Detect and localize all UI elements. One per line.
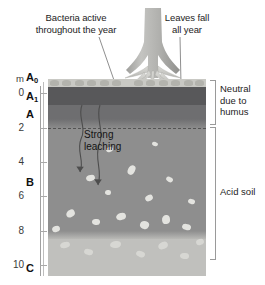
horizon-label-a: A xyxy=(26,108,34,120)
soil-column xyxy=(48,79,206,276)
scale-label-10: 10 xyxy=(2,259,24,270)
label-neutral-line3: humus xyxy=(220,106,264,118)
scale-tick-6 xyxy=(40,196,47,197)
scale-label-4: 4 xyxy=(8,156,24,167)
label-neutral-line1: Neutral xyxy=(220,83,264,95)
scale-label-0: 0 xyxy=(8,87,24,98)
scale-tick-10 xyxy=(40,265,47,266)
horizon-label-b: B xyxy=(26,176,34,188)
bracket-acid-soil xyxy=(210,127,216,260)
label-strong-leaching: Strong leaching xyxy=(84,129,148,153)
horizon-label-c: C xyxy=(26,262,34,274)
scale-axis-line xyxy=(40,86,41,276)
caption-bacteria-active: Bacteria active throughout the year xyxy=(26,12,126,35)
caption-bacteria-line1: Bacteria active xyxy=(26,12,126,24)
scale-label-6: 6 xyxy=(8,190,24,201)
scale-label-8: 8 xyxy=(8,225,24,236)
horizon-bracket-line xyxy=(43,82,44,276)
horizon-label-a0: A0 xyxy=(26,71,38,83)
caption-bacteria-line2: throughout the year xyxy=(26,24,126,36)
scale-label-2: 2 xyxy=(8,122,24,133)
scale-tick-0 xyxy=(40,93,47,94)
horizon-a0-sub: 0 xyxy=(34,76,38,85)
label-strong-line2: leaching xyxy=(84,141,148,153)
scale-unit-label: m xyxy=(16,73,24,84)
scale-tick-8 xyxy=(40,231,47,232)
label-neutral-line2: due to xyxy=(220,95,264,107)
horizon-a1-letter: A xyxy=(26,90,34,102)
scale-tick-4 xyxy=(40,162,47,163)
label-acid-soil: Acid soil xyxy=(220,186,264,198)
bracket-neutral xyxy=(210,80,216,125)
scale-tick-2 xyxy=(40,128,47,129)
tree-graphic xyxy=(118,8,188,88)
soil-profile-figure: Bacteria active throughout the year Leav… xyxy=(0,0,265,285)
leaching-arrows xyxy=(48,79,206,276)
horizon-a1-sub: 1 xyxy=(34,95,38,104)
horizon-a0-letter: A xyxy=(26,71,34,83)
label-strong-line1: Strong xyxy=(84,129,148,141)
label-neutral: Neutral due to humus xyxy=(220,83,264,118)
horizon-label-a1: A1 xyxy=(26,90,38,102)
